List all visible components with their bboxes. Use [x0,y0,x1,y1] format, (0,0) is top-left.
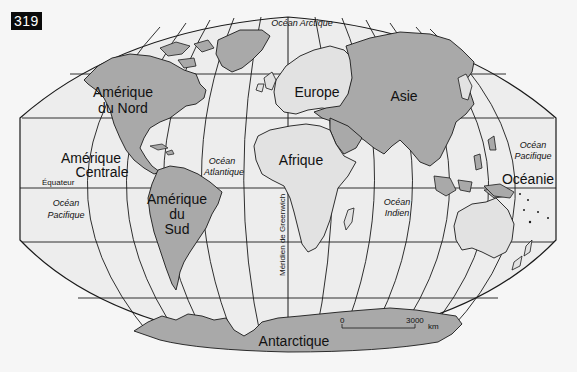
label-pacific-west-2: Pacifique [47,210,84,220]
label-africa: Afrique [279,152,324,168]
label-south-america-2: du [169,206,185,222]
label-equator: Équateur [42,178,75,187]
label-north-america-1: Amérique [93,84,153,100]
label-south-america-3: Sud [165,221,190,237]
label-antarctica: Antarctique [259,333,330,349]
scale-start-label: 0 [340,316,345,325]
label-indian-ocean-1: Océan [384,197,411,207]
label-oceania: Océanie [502,171,554,187]
label-atlantic-ocean-1: Océan [209,156,236,166]
world-map: Amérique du Nord Amérique Centrale Améri… [0,0,577,372]
label-pacific-east-2: Pacifique [514,151,551,161]
scale-unit-label: km [428,322,439,331]
label-europe: Europe [294,84,339,100]
label-central-america-2: Centrale [76,164,129,180]
label-pacific-east-1: Océan [520,140,547,150]
label-arctic-ocean: Océan Arctique [271,18,333,28]
label-indian-ocean-2: Indien [385,208,410,218]
label-north-america-2: du Nord [98,100,148,116]
label-south-america-1: Amérique [147,191,207,207]
label-pacific-west-1: Océan [53,198,80,208]
label-atlantic-ocean-2: Atlantique [203,167,244,177]
label-asia: Asie [390,88,417,104]
scale-end-label: 3000 [406,316,424,325]
label-greenwich-meridian: Méridien de Greenwich [278,194,287,276]
